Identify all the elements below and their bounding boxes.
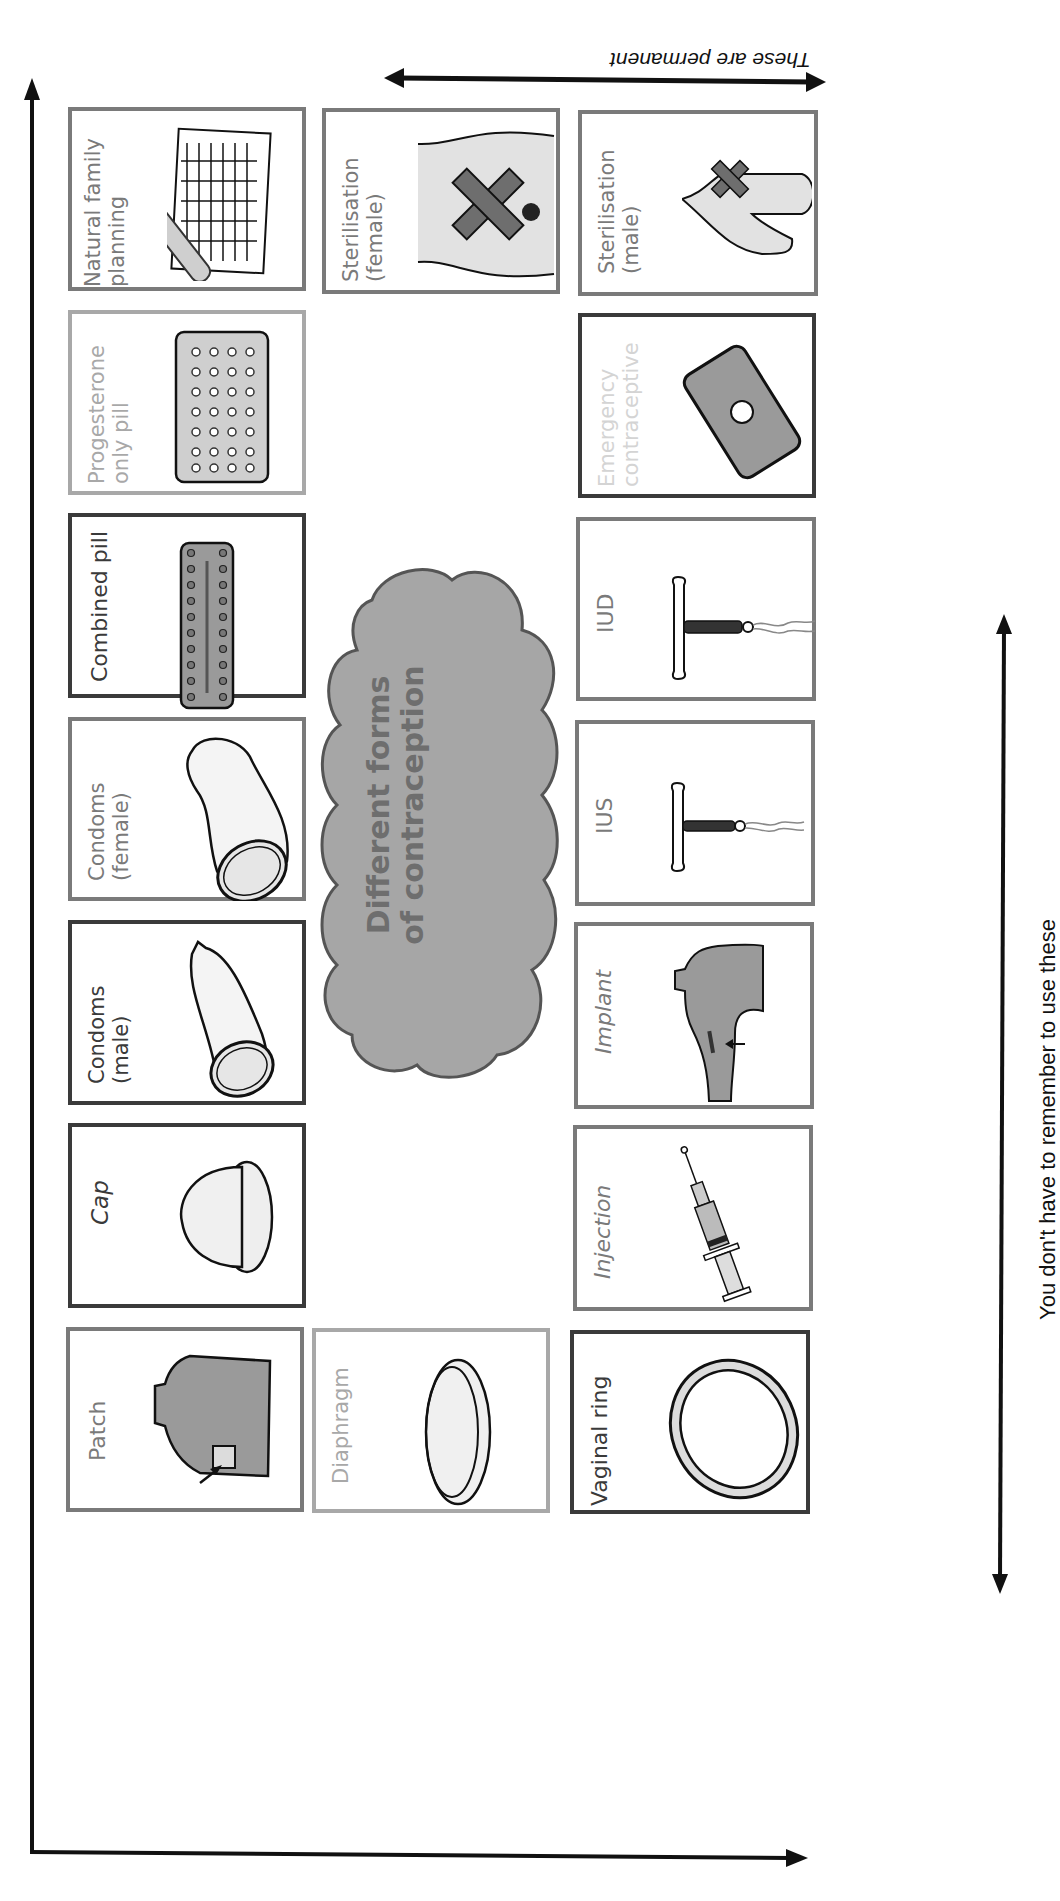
card-emergency-contraceptive[interactable]: Emergency contraceptive — [578, 313, 816, 498]
card-cap[interactable]: Cap — [68, 1123, 306, 1308]
card-progesterone-only-pill[interactable]: Progesterone only pill — [68, 310, 306, 495]
card-label: IUS — [593, 797, 618, 834]
male-condom-icon — [172, 934, 292, 1104]
syringe-icon — [672, 1141, 752, 1311]
card-label: Vaginal ring — [588, 1376, 613, 1507]
card-diaphragm[interactable]: Diaphragm — [312, 1328, 550, 1513]
card-iud[interactable]: IUD — [576, 517, 816, 701]
iud-icon — [670, 571, 820, 686]
combined-pill-pack-icon — [177, 541, 237, 716]
annotation-permanent: These are permanent — [610, 48, 811, 72]
card-vaginal-ring[interactable]: Vaginal ring — [570, 1330, 810, 1514]
card-label: Emergency contraceptive — [596, 342, 643, 487]
page-title: Different forms of contraception — [362, 640, 429, 970]
female-condom-icon — [172, 731, 302, 901]
card-label: Injection — [591, 1185, 616, 1279]
card-label: Sterilisation (male) — [596, 149, 643, 274]
arm-implant-icon — [673, 941, 783, 1106]
cloud-shape-icon — [312, 560, 562, 1085]
card-sterilisation-male[interactable]: Sterilisation (male) — [578, 110, 818, 296]
diaphragm-icon — [416, 1357, 496, 1507]
skin-patch-icon — [150, 1351, 290, 1501]
card-patch[interactable]: Patch — [66, 1327, 304, 1512]
card-label: Patch — [86, 1401, 111, 1461]
cervical-cap-icon — [172, 1157, 282, 1287]
fallopian-cross-icon — [416, 124, 556, 284]
card-label: Progesterone only pill — [86, 345, 133, 484]
card-label: Diaphragm — [330, 1367, 354, 1484]
card-label: IUD — [594, 593, 619, 633]
annotation-no-remember: You don't have to remember to use these — [1035, 919, 1060, 1320]
ius-icon — [669, 779, 809, 879]
vas-cross-icon — [682, 154, 812, 274]
card-implant[interactable]: Implant — [574, 922, 814, 1109]
card-combined-pill[interactable]: Combined pill — [68, 513, 306, 698]
card-label: Natural family planning — [82, 138, 129, 287]
card-condoms-male[interactable]: Condoms (male) — [68, 920, 306, 1105]
card-label: Sterilisation (female) — [340, 157, 387, 282]
card-label: Condoms (female) — [86, 783, 133, 881]
pill-pack-icon — [172, 328, 272, 488]
card-ius[interactable]: IUS — [575, 720, 815, 906]
ring-icon — [664, 1354, 804, 1504]
card-injection[interactable]: Injection — [573, 1125, 813, 1311]
card-sterilisation-female[interactable]: Sterilisation (female) — [322, 108, 560, 294]
card-condoms-female[interactable]: Condoms (female) — [68, 717, 306, 901]
single-pill-icon — [677, 332, 807, 492]
card-natural-family-planning[interactable]: Natural family planning — [68, 107, 306, 291]
card-label: Condoms (male) — [86, 986, 133, 1084]
card-label: Combined pill — [88, 531, 113, 682]
card-label: Cap — [88, 1180, 114, 1225]
thermometer-chart-icon — [167, 121, 277, 281]
title-cloud: Different forms of contraception — [312, 560, 562, 1085]
card-label: Implant — [592, 970, 617, 1054]
